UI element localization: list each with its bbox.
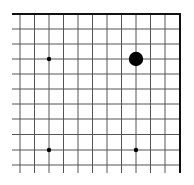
star-point [134, 148, 138, 152]
star-point [47, 57, 51, 61]
star-point [47, 148, 51, 152]
go-board[interactable] [0, 0, 194, 185]
black-stone[interactable] [129, 52, 143, 66]
board-edges [12, 14, 181, 173]
grid-lines [12, 14, 180, 173]
stones[interactable] [129, 52, 143, 66]
